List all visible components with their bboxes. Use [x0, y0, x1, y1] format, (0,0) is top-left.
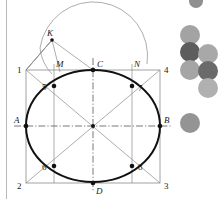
circle-lower-single — [180, 113, 200, 133]
gray-circle-cluster — [0, 0, 224, 199]
circle-col1-row3 — [180, 60, 200, 80]
circle-col2-row4 — [198, 78, 218, 98]
circle-col1-row2 — [180, 42, 200, 62]
screenshot-canvas: 1 2 3 4 5 6 7 8 A B C D K M N — [0, 0, 224, 199]
circle-top-partial — [189, 0, 203, 8]
